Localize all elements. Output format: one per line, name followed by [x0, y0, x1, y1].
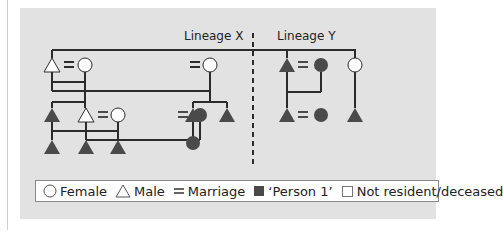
marriage-icon [178, 112, 188, 117]
female-open-icon [348, 58, 362, 72]
legend-item-female: Female [43, 184, 107, 199]
male-filled-icon [44, 108, 60, 122]
legend-item-not-resident: Not resident/deceased [341, 184, 503, 199]
legend-item-male: Male [115, 184, 165, 199]
lineage-x-label: Lineage X [184, 29, 243, 43]
legend-item-marriage: Marriage [173, 184, 245, 199]
marriage-icon [298, 62, 308, 67]
female-filled-icon [314, 108, 328, 122]
male-filled-icon [279, 108, 295, 122]
legend-label: Marriage [188, 184, 245, 199]
legend-label: Male [134, 184, 165, 199]
marriage-icon [190, 62, 200, 67]
legend-label: Not resident/deceased [357, 184, 503, 199]
male-filled-icon [44, 140, 60, 154]
male-filled-icon [78, 140, 94, 154]
male-filled-icon [219, 108, 235, 122]
marriage-icon [173, 184, 185, 198]
legend-label: Female [60, 184, 107, 199]
female-open-icon [43, 184, 57, 198]
square-open-icon [341, 184, 354, 198]
female-open-icon [111, 108, 125, 122]
female-open-icon [78, 58, 92, 72]
male-open-icon [115, 184, 131, 198]
legend-item-person1: ‘Person 1’ [253, 184, 332, 199]
male-open-icon [44, 58, 60, 72]
female-open-icon [203, 58, 217, 72]
male-filled-icon [347, 108, 363, 122]
lineage-y-label: Lineage Y [277, 29, 336, 43]
marriage-icon [64, 62, 74, 67]
legend-label: ‘Person 1’ [268, 184, 332, 199]
legend: Female Male Marriage ‘Person 1’ Not resi… [35, 180, 439, 202]
female-filled-icon [314, 58, 328, 72]
male-filled-icon [279, 58, 295, 72]
square-filled-icon [253, 184, 265, 198]
female-filled-icon [186, 136, 200, 150]
marriage-icon [298, 112, 308, 117]
marriage-icon [98, 112, 108, 117]
male-open-icon [78, 108, 94, 122]
male-filled-icon [110, 140, 126, 154]
